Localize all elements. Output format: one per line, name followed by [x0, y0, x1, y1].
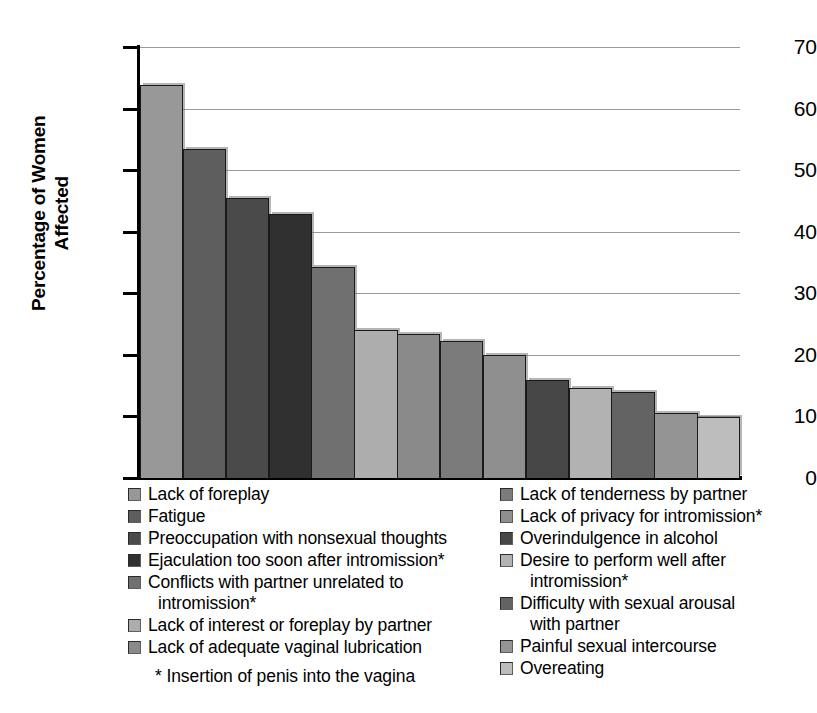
legend-swatch-icon: [500, 532, 513, 545]
legend-item: Preoccupation with nonsexual thoughts: [128, 528, 478, 549]
legend-item-label: Fatigue: [148, 506, 205, 527]
bar: [226, 198, 269, 478]
legend-swatch-icon: [128, 554, 141, 567]
legend-column-left: Lack of foreplayFatiguePreoccupation wit…: [128, 484, 478, 659]
bar: [697, 417, 740, 478]
legend-swatch-icon: [128, 619, 141, 632]
legend-item-label: Painful sexual intercourse: [520, 636, 717, 657]
legend-swatch-icon: [128, 576, 141, 589]
legend-item: Ejaculation too soon after intromission*: [128, 550, 478, 571]
bar: [654, 413, 697, 478]
bar: [269, 214, 312, 478]
legend-item: Conflicts with partner unrelated tointro…: [128, 572, 478, 614]
legend-item-label: Lack of privacy for intromission*: [520, 506, 762, 527]
bar: [611, 392, 654, 478]
legend-item-label: Conflicts with partner unrelated tointro…: [148, 572, 403, 614]
legend-item-label: Desire to perform well afterintromission…: [520, 550, 726, 592]
legend-item: Fatigue: [128, 506, 478, 527]
legend-item-label: Overindulgence in alcohol: [520, 528, 718, 549]
legend-item-label: Overeating: [520, 658, 604, 679]
bar: [526, 380, 569, 478]
legend-item: Lack of foreplay: [128, 484, 478, 505]
legend-swatch-icon: [500, 510, 513, 523]
y-axis-title-line-1: Percentage of Women: [27, 83, 50, 343]
legend-swatch-icon: [500, 662, 513, 675]
legend-item-label: Preoccupation with nonsexual thoughts: [148, 528, 447, 549]
y-tick-mark: [123, 477, 138, 480]
y-tick-mark: [123, 415, 138, 418]
gridline: [140, 170, 740, 171]
bar: [397, 334, 440, 478]
legend-item-label: Lack of adequate vaginal lubrication: [148, 637, 422, 658]
legend-item: Overindulgence in alcohol: [500, 528, 810, 549]
legend-swatch-icon: [500, 488, 513, 501]
legend-swatch-icon: [500, 640, 513, 653]
legend-item: Difficulty with sexual arousalwith partn…: [500, 593, 810, 635]
y-axis-title-line-2: Affected: [50, 83, 73, 343]
y-tick-mark: [123, 231, 138, 234]
legend-item: Overeating: [500, 658, 810, 679]
legend-item: Desire to perform well afterintromission…: [500, 550, 810, 592]
gridline: [140, 47, 740, 48]
legend-item: Painful sexual intercourse: [500, 636, 810, 657]
gridline: [140, 109, 740, 110]
bar: [183, 149, 226, 478]
plot-area: [140, 47, 740, 478]
legend-column-right: Lack of tenderness by partnerLack of pri…: [500, 484, 810, 680]
legend-swatch-icon: [128, 510, 141, 523]
legend-item-label: Lack of interest or foreplay by partner: [148, 615, 432, 636]
y-tick-mark: [123, 354, 138, 357]
legend-item-label: Difficulty with sexual arousalwith partn…: [520, 593, 735, 635]
legend-item-label-continuation: with partner: [520, 614, 735, 635]
legend-item: Lack of adequate vaginal lubrication: [128, 637, 478, 658]
y-tick-mark: [123, 46, 138, 49]
legend-item: Lack of tenderness by partner: [500, 484, 810, 505]
legend-item-label: Ejaculation too soon after intromission*: [148, 550, 445, 571]
bar: [140, 85, 183, 478]
chart-footnote: * Insertion of penis into the vagina: [155, 666, 415, 687]
legend-item: Lack of privacy for intromission*: [500, 506, 810, 527]
y-tick-mark: [123, 292, 138, 295]
y-tick-mark: [123, 108, 138, 111]
bar: [354, 330, 397, 478]
bar: [311, 267, 354, 478]
legend-item-label-continuation: intromission*: [520, 571, 726, 592]
y-axis-title: Percentage of Women Affected: [27, 83, 73, 343]
legend-swatch-icon: [128, 532, 141, 545]
legend-item-label: Lack of foreplay: [148, 484, 269, 505]
legend-swatch-icon: [500, 554, 513, 567]
bar: [569, 388, 612, 478]
legend-swatch-icon: [128, 488, 141, 501]
legend-item: Lack of interest or foreplay by partner: [128, 615, 478, 636]
legend-item-label: Lack of tenderness by partner: [520, 484, 747, 505]
bar: [440, 341, 483, 478]
legend-swatch-icon: [128, 641, 141, 654]
chart-legend: Lack of foreplayFatiguePreoccupation wit…: [0, 484, 817, 669]
bar-chart-figure: Percentage of Women Affected 01020304050…: [0, 0, 817, 713]
legend-swatch-icon: [500, 597, 513, 610]
y-tick-mark: [123, 169, 138, 172]
legend-item-label-continuation: intromission*: [148, 593, 403, 614]
bar: [483, 355, 526, 478]
